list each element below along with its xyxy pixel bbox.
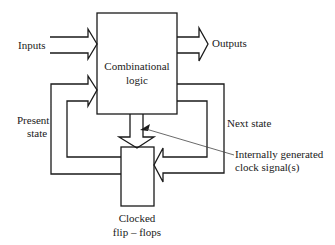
next-state-label: Next state [227, 117, 271, 129]
present-state-label-2: state [27, 127, 47, 139]
clock-signal-label-1: Internally generated [235, 148, 324, 160]
flip-flops-label-1: Clocked [119, 212, 156, 224]
logic-to-flipflops-arrow [119, 114, 154, 148]
present-state-label-1: Present [17, 114, 49, 126]
outputs-label: Outputs [212, 37, 247, 49]
present-state-arrow [51, 76, 121, 174]
flip-flops-block [121, 147, 154, 206]
combinational-logic-label-2: logic [126, 74, 148, 86]
clock-signal-label-2: clock signal(s) [235, 161, 300, 174]
inputs-arrow [50, 29, 97, 59]
outputs-arrow [177, 28, 208, 61]
combinational-logic-label-1: Combinational [104, 60, 169, 72]
sequential-circuit-diagram: Combinational logic Inputs Outputs Prese… [0, 0, 335, 245]
flip-flops-label-2: flip – flops [113, 226, 161, 238]
inputs-label: Inputs [18, 39, 46, 51]
next-state-arrow [154, 84, 224, 182]
